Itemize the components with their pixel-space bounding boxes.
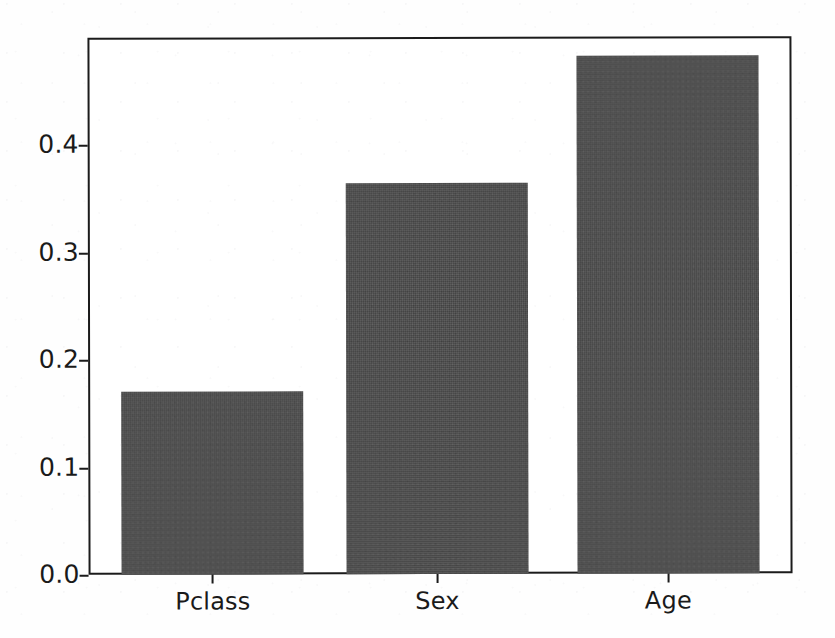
y-tick-label: 0.4 bbox=[38, 130, 78, 159]
bar-series bbox=[87, 36, 791, 37]
bar-sex bbox=[345, 183, 528, 574]
y-tick-mark bbox=[79, 467, 88, 469]
y-tick-mark bbox=[79, 253, 88, 255]
y-tick-mark bbox=[80, 575, 89, 577]
y-tick-label: 0.1 bbox=[39, 452, 79, 481]
bar-pclass bbox=[121, 392, 304, 575]
x-tick-mark bbox=[212, 574, 214, 583]
x-tick-label-age: Age bbox=[645, 586, 692, 614]
y-tick-label: 0.2 bbox=[39, 345, 79, 374]
x-tick-label-pclass: Pclass bbox=[175, 587, 250, 615]
x-tick-mark bbox=[436, 574, 438, 583]
bar-chart-figure: 0.00.10.20.30.4 PclassSexAge bbox=[0, 0, 835, 638]
chart-canvas: 0.00.10.20.30.4 PclassSexAge bbox=[87, 36, 792, 574]
y-tick-mark bbox=[79, 360, 88, 362]
x-axis: PclassSexAge bbox=[87, 36, 791, 37]
x-tick-mark bbox=[667, 574, 669, 583]
y-tick-mark bbox=[79, 145, 88, 147]
bar-age bbox=[576, 56, 759, 574]
x-tick-label-sex: Sex bbox=[415, 587, 459, 615]
y-axis: 0.00.10.20.30.4 bbox=[87, 36, 791, 37]
y-tick-label: 0.3 bbox=[38, 237, 78, 266]
y-tick-label: 0.0 bbox=[39, 560, 79, 589]
